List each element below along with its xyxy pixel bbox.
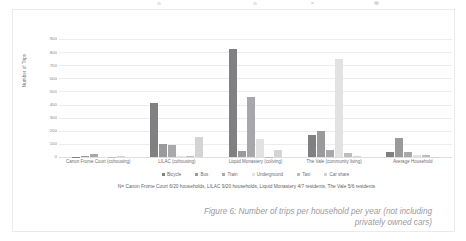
x-axis-label: LILAC (cohousing) — [138, 159, 217, 164]
bar-bicycle[interactable] — [72, 157, 80, 158]
legend-label: Bicycle — [167, 172, 181, 177]
legend-item-train[interactable]: Train — [222, 172, 237, 177]
bar-plot — [59, 39, 452, 157]
legend-label: Underground — [257, 172, 283, 177]
bar-bicycle[interactable] — [229, 49, 237, 157]
legend-label: Car share — [329, 172, 349, 177]
bar-underground[interactable] — [177, 156, 185, 157]
bar-group — [305, 39, 363, 157]
bar-bus[interactable] — [317, 131, 325, 157]
bar-car-share[interactable] — [431, 157, 439, 158]
legend-swatch-icon — [324, 173, 327, 176]
bar-bus[interactable] — [159, 144, 167, 157]
bar-train[interactable] — [90, 154, 98, 157]
y-axis-tick-labels: 0100200300400500600700800900 — [35, 39, 57, 157]
bar-bus[interactable] — [395, 138, 403, 157]
bar-train[interactable] — [404, 152, 412, 157]
legend-item-taxi[interactable]: Taxi — [297, 172, 310, 177]
bar-bicycle[interactable] — [386, 152, 394, 157]
x-axis-label: The Vale (community living) — [295, 159, 374, 164]
y-axis-tick-200: 200 — [39, 128, 57, 133]
legend-swatch-icon — [252, 173, 255, 176]
y-axis-tick-600: 600 — [39, 76, 57, 81]
legend-label: Taxi — [302, 172, 310, 177]
y-axis-tick-700: 700 — [39, 63, 57, 68]
x-axis-label: Liquid Monastery (coliving) — [216, 159, 295, 164]
bar-car-share[interactable] — [117, 156, 125, 157]
legend-item-bicycle[interactable]: Bicycle — [162, 172, 181, 177]
y-axis-tick-800: 800 — [39, 50, 57, 55]
x-axis-category-labels: Canon Frome Court (cohousing)LILAC (coho… — [59, 159, 452, 169]
bar-bicycle[interactable] — [150, 103, 158, 157]
bar-group — [69, 39, 127, 157]
bar-taxi[interactable] — [265, 157, 273, 158]
bar-group — [384, 39, 442, 157]
bar-group — [148, 39, 206, 157]
bar-underground[interactable] — [256, 139, 264, 157]
bar-bicycle[interactable] — [308, 135, 316, 157]
bar-underground[interactable] — [99, 157, 107, 158]
y-axis-title: Number of Trips — [22, 36, 27, 106]
bar-train[interactable] — [326, 150, 334, 157]
legend-item-bus[interactable]: Bus — [195, 172, 208, 177]
y-axis-tick-900: 900 — [39, 36, 57, 41]
legend-swatch-icon — [162, 173, 165, 176]
chart-plot-area — [59, 39, 452, 157]
figure-caption: Figure 6: Number of trips per household … — [182, 206, 432, 228]
legend-swatch-icon — [195, 173, 198, 176]
bar-underground[interactable] — [413, 155, 421, 157]
bar-car-share[interactable] — [195, 137, 203, 157]
y-axis-tick-0: 0 — [39, 154, 57, 159]
legend-label: Bus — [200, 172, 208, 177]
bar-taxi[interactable] — [344, 153, 352, 157]
bar-car-share[interactable] — [353, 156, 361, 157]
y-axis-tick-300: 300 — [39, 115, 57, 120]
x-axis-label: Average Household — [373, 159, 452, 164]
x-axis-label: Canon Frome Court (cohousing) — [59, 159, 138, 164]
bar-bus[interactable] — [238, 151, 246, 157]
bar-car-share[interactable] — [274, 150, 282, 157]
bar-bus[interactable] — [81, 156, 89, 157]
bar-taxi[interactable] — [422, 155, 430, 157]
legend-item-underground[interactable]: Underground — [252, 172, 283, 177]
bar-underground[interactable] — [335, 59, 343, 157]
gridline-0 — [59, 157, 452, 158]
chart-legend: BicycleBusTrainUndergroundTaxiCar share — [59, 170, 452, 179]
y-axis-tick-500: 500 — [39, 89, 57, 94]
legend-swatch-icon — [297, 173, 300, 176]
bar-train[interactable] — [168, 145, 176, 157]
legend-label: Train — [227, 172, 237, 177]
sample-size-note: N= Canon Frome Court 6/20 households, LI… — [25, 184, 466, 189]
bar-group — [227, 39, 285, 157]
y-axis-tick-400: 400 — [39, 102, 57, 107]
legend-item-car-share[interactable]: Car share — [324, 172, 349, 177]
y-axis-tick-100: 100 — [39, 141, 57, 146]
bar-taxi[interactable] — [186, 156, 194, 157]
bar-taxi[interactable] — [108, 157, 116, 158]
legend-swatch-icon — [222, 173, 225, 176]
bar-train[interactable] — [247, 97, 255, 157]
figure-page: Number of Trips 010020030040050060070080… — [0, 0, 466, 241]
figure-frame: Number of Trips 010020030040050060070080… — [12, 9, 455, 232]
